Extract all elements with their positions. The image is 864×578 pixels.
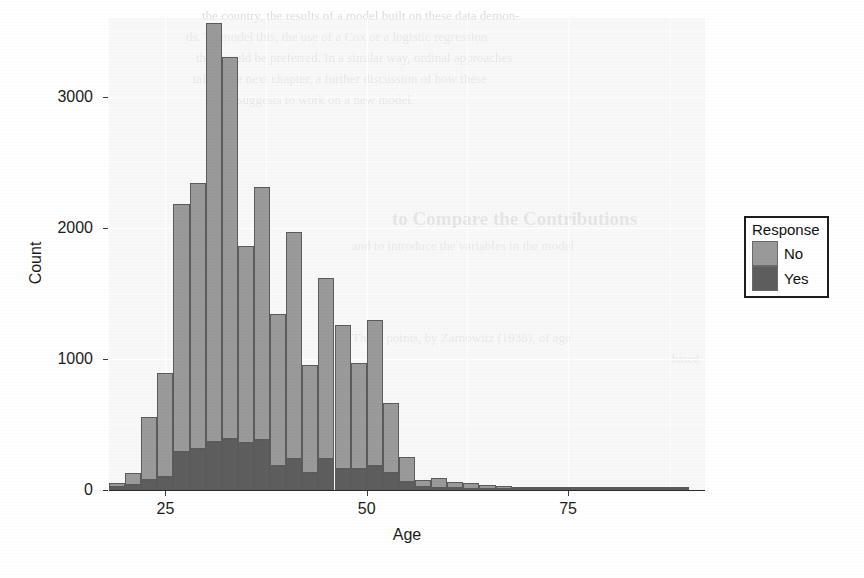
- bar-segment-yes: [157, 477, 173, 490]
- bar-group: [657, 18, 673, 490]
- bar-segment-yes: [383, 473, 399, 490]
- bar-group: [624, 18, 640, 490]
- bar-segment-no: [109, 483, 125, 488]
- bar-group: [512, 18, 528, 490]
- bar-segment-no: [302, 365, 318, 473]
- histogram-figure: 0100020003000 255075 Count Age Response …: [0, 0, 864, 578]
- bar-segment-no: [383, 403, 399, 472]
- bar-segment-yes: [318, 459, 334, 490]
- bar-group: [254, 18, 270, 490]
- bar-segment-no: [141, 417, 157, 480]
- bar-segment-yes: [270, 466, 286, 490]
- bar-group: [222, 18, 238, 490]
- bar-segment-yes: [190, 449, 206, 490]
- bar-segment-no: [335, 325, 351, 469]
- bar-segment-no: [479, 485, 495, 489]
- bar-segment-no: [512, 487, 528, 489]
- bar-segment-no: [173, 204, 189, 452]
- bar-segment-yes: [206, 442, 222, 491]
- legend-item-yes[interactable]: Yes: [752, 266, 820, 291]
- bar-group: [318, 18, 334, 490]
- bar-group: [383, 18, 399, 490]
- y-tick-label: 1000: [19, 350, 93, 368]
- bar-group: [463, 18, 479, 490]
- bar-segment-no: [206, 23, 222, 441]
- bar-segment-no: [657, 487, 673, 489]
- bar-segment-no: [673, 487, 689, 489]
- bar-group: [399, 18, 415, 490]
- bar-group: [592, 18, 608, 490]
- bar-segment-yes: [351, 469, 367, 490]
- bar-segment-no: [286, 232, 302, 459]
- bar-segment-no: [624, 487, 640, 489]
- bar-segment-yes: [222, 439, 238, 490]
- bar-group: [544, 18, 560, 490]
- legend: Response NoYes: [744, 216, 829, 298]
- x-axis-label: Age: [109, 526, 705, 544]
- bar-group: [157, 18, 173, 490]
- bar-group: [641, 18, 657, 490]
- bar-segment-yes: [302, 473, 318, 490]
- legend-item-label: Yes: [784, 271, 808, 286]
- y-tick-mark: [103, 359, 108, 360]
- bar-segment-no: [157, 373, 173, 477]
- x-tick-label: 75: [559, 500, 577, 518]
- bar-group: [190, 18, 206, 490]
- y-tick-label: 0: [19, 481, 93, 499]
- bar-group: [206, 18, 222, 490]
- legend-swatch-icon: [752, 266, 778, 291]
- x-tick-mark: [568, 491, 569, 496]
- bar-group: [109, 18, 125, 490]
- bar-group: [173, 18, 189, 490]
- bar-group: [270, 18, 286, 490]
- x-tick-mark: [367, 491, 368, 496]
- bar-segment-no: [528, 487, 544, 489]
- bar-segment-no: [367, 320, 383, 467]
- bar-group: [560, 18, 576, 490]
- y-tick-mark: [103, 228, 108, 229]
- bar-segment-no: [222, 57, 238, 439]
- bar-segment-no: [190, 183, 206, 449]
- bar-segment-no: [560, 487, 576, 489]
- plot-panel: [109, 18, 705, 490]
- y-axis-label: Count: [27, 223, 45, 303]
- bar-segment-yes: [399, 482, 415, 490]
- bar-group: [302, 18, 318, 490]
- bar-segment-no: [318, 278, 334, 459]
- bar-segment-no: [415, 480, 431, 488]
- bar-group: [576, 18, 592, 490]
- y-tick-mark: [103, 490, 108, 491]
- legend-swatch-icon: [752, 241, 778, 266]
- bar-segment-yes: [238, 443, 254, 490]
- legend-items: NoYes: [752, 241, 820, 291]
- bar-group: [286, 18, 302, 490]
- bar-group: [141, 18, 157, 490]
- bar-segment-yes: [173, 452, 189, 490]
- bar-segment-no: [608, 487, 624, 489]
- bar-group: [528, 18, 544, 490]
- x-tick-mark: [165, 491, 166, 496]
- bar-group: [351, 18, 367, 490]
- bar-segment-no: [463, 483, 479, 489]
- bar-segment-no: [496, 486, 512, 489]
- bar-group: [479, 18, 495, 490]
- legend-item-no[interactable]: No: [752, 241, 820, 266]
- bar-segment-yes: [141, 480, 157, 490]
- bar-segment-yes: [254, 440, 270, 490]
- y-tick-label: 3000: [19, 88, 93, 106]
- bar-segment-no: [641, 487, 657, 489]
- bar-group: [415, 18, 431, 490]
- bar-group: [608, 18, 624, 490]
- bar-group: [431, 18, 447, 490]
- legend-title: Response: [752, 222, 820, 238]
- bar-group: [335, 18, 351, 490]
- bar-segment-no: [270, 314, 286, 466]
- bar-segment-no: [254, 187, 270, 440]
- bar-segment-yes: [367, 466, 383, 490]
- bar-segment-no: [544, 487, 560, 489]
- bar-segment-no: [238, 246, 254, 443]
- bar-segment-yes: [335, 469, 351, 490]
- x-axis-line: [109, 490, 705, 491]
- bar-segment-no: [447, 482, 463, 489]
- bar-segment-no: [351, 363, 367, 469]
